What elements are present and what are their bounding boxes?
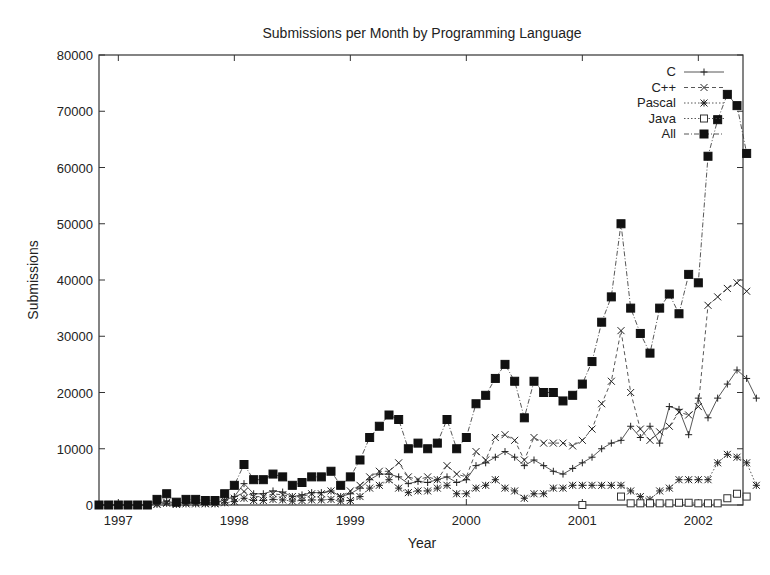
- y-tick-label: 20000: [57, 386, 93, 401]
- line-chart: Submissions per Month by Programming Lan…: [0, 0, 770, 575]
- legend-label: Pascal: [637, 95, 676, 110]
- legend-item: C++: [651, 80, 724, 95]
- x-tick-label: 2002: [684, 513, 713, 528]
- series-all: [95, 90, 751, 509]
- y-tick-label: 0: [86, 498, 93, 513]
- legend-item: Java: [649, 111, 724, 126]
- x-tick-label: 2001: [568, 513, 597, 528]
- x-axis-label: Year: [408, 535, 437, 551]
- y-tick-label: 70000: [57, 104, 93, 119]
- legend: CC++PascalJavaAll: [637, 64, 724, 141]
- x-tick-label: 1998: [220, 513, 249, 528]
- x-tick-label: 2000: [452, 513, 481, 528]
- chart-title: Submissions per Month by Programming Lan…: [262, 25, 581, 41]
- legend-label: C++: [651, 80, 676, 95]
- y-tick-label: 30000: [57, 329, 93, 344]
- series-java: [579, 490, 750, 508]
- series-c: [96, 367, 760, 509]
- legend-item: All: [662, 126, 724, 141]
- y-tick-label: 80000: [57, 48, 93, 63]
- legend-label: C: [667, 64, 676, 79]
- legend-label: Java: [649, 111, 677, 126]
- plot-frame: [99, 55, 743, 505]
- series-cpp: [96, 279, 751, 508]
- legend-item: C: [667, 64, 724, 79]
- y-axis-label: Submissions: [25, 240, 41, 319]
- y-tick-label: 60000: [57, 161, 93, 176]
- y-tick-label: 10000: [57, 442, 93, 457]
- y-tick-label: 40000: [57, 273, 93, 288]
- x-tick-label: 1997: [104, 513, 133, 528]
- legend-item: Pascal: [637, 95, 724, 110]
- y-tick-label: 50000: [57, 217, 93, 232]
- legend-label: All: [662, 126, 677, 141]
- x-tick-label: 1999: [336, 513, 365, 528]
